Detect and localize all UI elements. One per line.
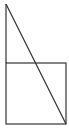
diagonal-line	[6, 4, 66, 124]
square	[6, 63, 66, 124]
geometry-diagram	[0, 0, 69, 128]
